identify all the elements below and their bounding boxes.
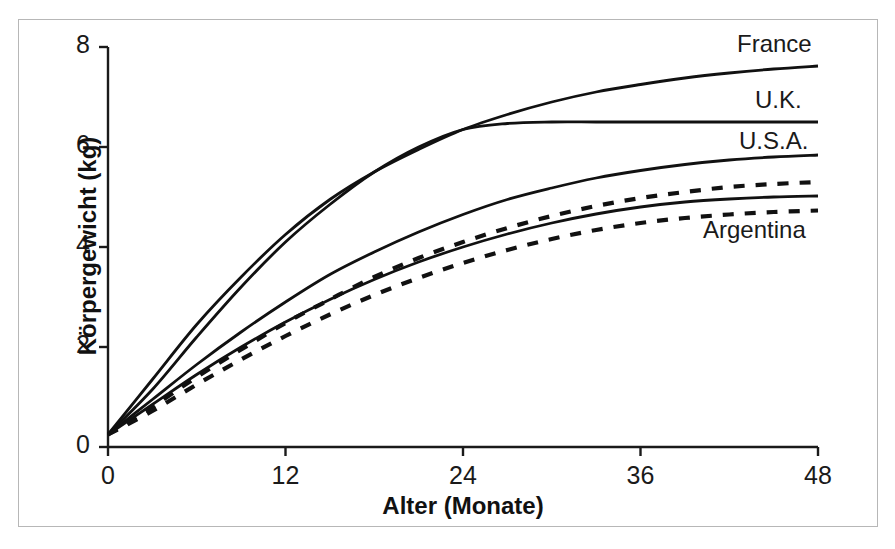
x-axis-tick-label: 48 xyxy=(788,461,848,490)
series-line-u-s-a xyxy=(108,155,818,435)
x-axis-tick-label: 12 xyxy=(256,461,316,490)
y-axis-tick-label: 8 xyxy=(50,30,90,59)
x-axis-ticks xyxy=(108,447,818,456)
series-line-u-k xyxy=(108,122,818,435)
x-axis-tick-label: 24 xyxy=(433,461,493,490)
figure-container: 02468 012243648 Körpergewicht (kg) Alter… xyxy=(0,0,895,549)
y-axis-tick-label: 0 xyxy=(50,430,90,459)
x-axis-tick-label: 36 xyxy=(611,461,671,490)
series-label-france: France xyxy=(737,30,812,58)
series-label-u-s-a: U.S.A. xyxy=(739,127,808,155)
series-label-u-k: U.K. xyxy=(755,86,802,114)
x-axis-tick-label: 0 xyxy=(78,461,138,490)
y-axis-title: Körpergewicht (kg) xyxy=(74,81,102,411)
series-label-argentina: Argentina xyxy=(703,216,806,244)
axes xyxy=(99,47,818,456)
data-series-group xyxy=(108,66,818,435)
x-axis-title: Alter (Monate) xyxy=(108,492,818,520)
